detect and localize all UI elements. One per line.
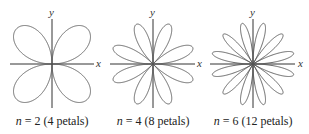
y-axis-label: y	[149, 6, 155, 18]
x-axis-label: x	[95, 57, 101, 69]
panel-n2: x y n = 2 (4 petals)	[10, 6, 101, 128]
caption: n = 2 (4 petals)	[16, 114, 89, 128]
caption-text: = 2 (4 petals)	[22, 114, 89, 128]
panel-n6: x y n = 6 (12 petals)	[210, 6, 303, 128]
panel-n4: x y n = 4 (8 petals)	[110, 6, 202, 128]
y-axis-label: y	[249, 6, 255, 18]
caption-text: = 6 (12 petals)	[220, 114, 293, 128]
caption: n = 6 (12 petals)	[214, 114, 293, 128]
caption: n = 4 (8 petals)	[117, 114, 190, 128]
x-axis-label: x	[297, 57, 303, 69]
y-axis-label: y	[48, 6, 54, 18]
caption-text: = 4 (8 petals)	[123, 114, 190, 128]
rose-curves-figure: x y n = 2 (4 petals) x y n = 4 (8 petals…	[0, 0, 309, 134]
x-axis-label: x	[196, 57, 202, 69]
